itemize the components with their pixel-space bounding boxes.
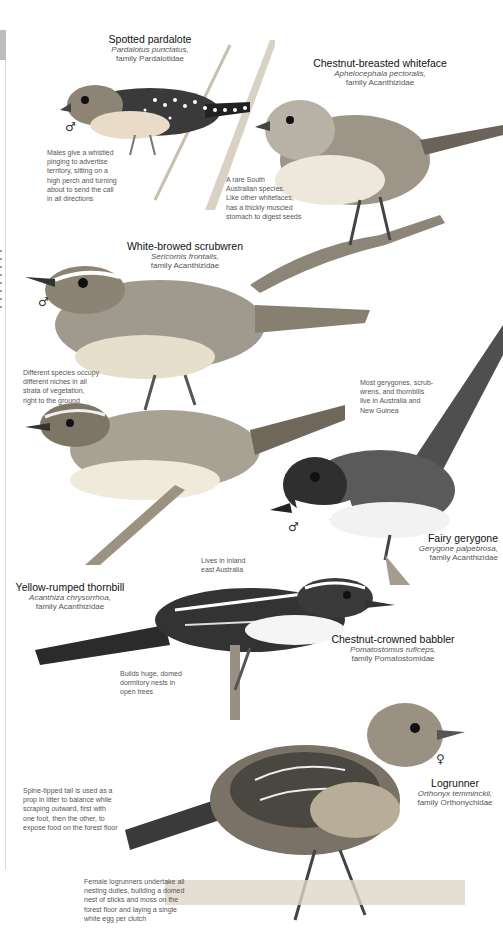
- note-logrunner-nesting: Female logrunners undertake allnesting d…: [84, 877, 209, 923]
- bird-scientific-name: Pomatostomus ruficeps,: [313, 645, 473, 654]
- label-logrunner: Logrunner Orthonyx temminckii, family Or…: [410, 777, 500, 807]
- bird-name: White-browed scrubwren: [110, 240, 260, 252]
- bird-family: family Pomatostomidae: [313, 654, 473, 663]
- bird-name: Chestnut-crowned babbler: [313, 633, 473, 645]
- bird-family: family Acanthizidae: [400, 553, 498, 562]
- note-white-browed-scrubwren: Different species occupydifferent niches…: [23, 368, 123, 405]
- bird-name: Logrunner: [410, 777, 500, 789]
- margin-scroll-tab: [0, 30, 6, 60]
- label-chestnut-crowned-babbler: Chestnut-crowned babbler Pomatostomus ru…: [313, 633, 473, 663]
- bird-scientific-name: Gerygone palpebrosa,: [400, 544, 498, 553]
- bird-name: Fairy gerygone: [400, 532, 498, 544]
- bird-scientific-name: Sericornis frontalis,: [110, 252, 260, 261]
- note-logrunner-tail: Spine-tipped tail is used as aprop in li…: [23, 786, 153, 832]
- margin-rule: [5, 30, 6, 870]
- male-symbol-icon: ♂: [288, 520, 299, 534]
- note-spotted-pardalote: Males give a whistledpinging to advertis…: [47, 148, 157, 203]
- label-chestnut-breasted-whiteface: Chestnut-breasted whiteface Aphelocephal…: [300, 57, 460, 87]
- note-chestnut-breasted-whiteface: A rare SouthAustralian species.Like othe…: [226, 175, 336, 221]
- bird-scientific-name: Orthonyx temminckii,: [410, 789, 500, 798]
- male-symbol-icon: ♂: [38, 295, 49, 309]
- label-fairy-gerygone: Fairy gerygone Gerygone palpebrosa, fami…: [400, 532, 498, 562]
- bird-family: family Orthonychidae: [410, 798, 500, 807]
- female-symbol-icon: ♀: [436, 752, 445, 766]
- margin-dots: [0, 250, 2, 310]
- male-symbol-icon: ♂: [65, 120, 76, 134]
- bird-scientific-name: Aphelocephala pectoralis,: [300, 69, 460, 78]
- bird-name: Chestnut-breasted whiteface: [300, 57, 460, 69]
- encyclopedia-page: Spotted pardalote Pardalotus punctatus, …: [0, 0, 503, 950]
